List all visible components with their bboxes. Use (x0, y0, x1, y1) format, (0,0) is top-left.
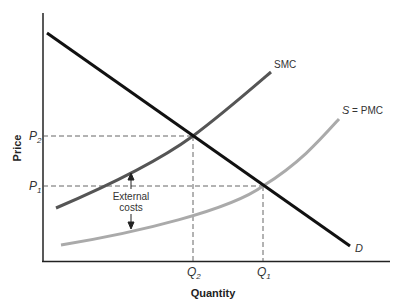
external-costs-line2: costs (119, 202, 142, 213)
p2-label: P2 (29, 129, 42, 145)
pmc-supply-curve (61, 119, 339, 245)
x-axis-title: Quantity (191, 287, 236, 299)
y-axis-title: Price (11, 135, 23, 162)
p1-label: P1 (29, 179, 41, 195)
smc-label: SMC (274, 59, 296, 70)
demand-label: D (355, 242, 363, 254)
q2-label: Q2 (187, 265, 201, 281)
q1-label: Q1 (257, 265, 271, 281)
externality-diagram: Price Quantity P2 P1 Q2 Q1 SMC S = PMC D… (0, 0, 393, 305)
pmc-label: S = PMC (342, 104, 383, 116)
external-costs-line1: External (113, 191, 150, 202)
smc-curve (56, 72, 271, 208)
